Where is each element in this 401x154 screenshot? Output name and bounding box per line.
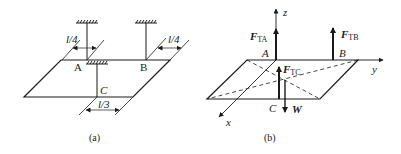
point-label-b: B [339,47,346,59]
dim-label-right: l/4 [168,33,180,45]
force-label-fta: FTA [249,30,268,44]
axis-label-z: z [282,6,288,18]
caption-b: (b) [264,132,276,144]
point-label-c: C [269,102,277,114]
point-label-a: A [261,47,269,59]
dim-label-bottom: l/3 [98,98,110,110]
dim-label-left: l/4 [66,33,78,45]
point-label-a: A [74,61,82,73]
point-label-c: C [100,84,108,96]
force-label-ftc: FTC [282,63,301,77]
x-axis [219,60,276,117]
caption-a: (a) [89,132,100,144]
ceiling-support-b-icon [135,20,157,23]
force-label-w: W [292,103,303,115]
axis-label-x: x [225,116,231,128]
figure-b [207,9,383,117]
force-label-ftb: FTB [340,28,359,42]
point-label-b: B [140,61,147,73]
diagram-canvas: l/4 l/4 l/3 A B C (a) z y x FTA FTB FTC … [0,0,401,154]
ceiling-support-c-icon [86,61,108,64]
axis-label-y: y [371,63,377,75]
ceiling-support-a-icon [76,20,98,23]
